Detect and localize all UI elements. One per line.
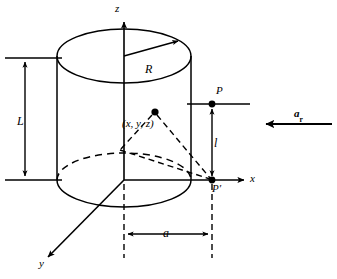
figure-container: z x y R L P P′ (x, y, z) l a ar	[0, 0, 337, 279]
source-projection-dashed	[120, 150, 210, 179]
length-label: L	[17, 115, 24, 127]
z-axis-label: z	[115, 3, 119, 14]
radial-distance-label: a	[163, 227, 169, 239]
radial-unit-vector-symbol: a	[294, 107, 300, 119]
point-p-prime-label: P′	[212, 183, 221, 194]
source-point-label: (x, y, z)	[122, 118, 154, 129]
radius-arrow	[124, 41, 178, 56]
height-label: l	[214, 137, 217, 149]
source-point-marker	[151, 108, 158, 115]
radial-unit-vector-subscript: r	[300, 115, 303, 124]
point-p-label: P	[216, 85, 223, 96]
x-axis-label: x	[250, 173, 255, 184]
radius-label: R	[145, 63, 152, 75]
point-p-marker	[209, 101, 216, 108]
y-axis	[48, 180, 124, 257]
source-to-p-prime-dashed	[157, 115, 210, 178]
radial-unit-vector-label: ar	[294, 108, 303, 122]
y-axis-label: y	[39, 258, 44, 269]
